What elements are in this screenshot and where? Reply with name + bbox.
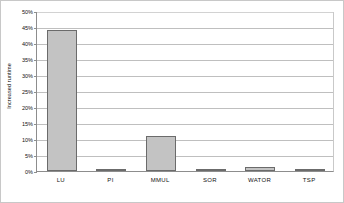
y-axis-tick-label: 10%: [22, 137, 33, 143]
x-axis-tick-label: WATOR: [248, 177, 271, 183]
y-axis-tick-label: 5%: [25, 153, 33, 159]
y-axis-title-text: Increased runtime: [6, 63, 12, 109]
bar-tsp: [295, 169, 325, 171]
bar-series: [37, 12, 333, 171]
bar-chart: Increased runtime 0%5%10%15%20%25%30%35%…: [0, 0, 344, 203]
x-axis-tick-label: PI: [107, 177, 113, 183]
x-axis-tick-label: MMUL: [151, 177, 170, 183]
x-axis-tick-label: SOR: [203, 177, 217, 183]
bar-wator: [245, 167, 275, 171]
y-axis-tick-mark: [34, 172, 37, 173]
y-axis-tick-labels: 0%5%10%15%20%25%30%35%40%45%50%: [13, 12, 35, 172]
y-axis-tick-label: 45%: [22, 25, 33, 31]
y-axis-tick-label: 30%: [22, 73, 33, 79]
bar-slot: [87, 12, 137, 171]
x-axis-tick-labels: LUPIMMULSORWATORTSP: [36, 177, 334, 191]
x-axis-tick-label: LU: [57, 177, 65, 183]
bar-slot: [236, 12, 286, 171]
bar-slot: [136, 12, 186, 171]
y-axis-tick-label: 25%: [22, 89, 33, 95]
plot-area: [36, 12, 334, 172]
bar-sor: [196, 169, 226, 171]
bar-pi: [96, 169, 126, 171]
y-axis-tick-label: 20%: [22, 105, 33, 111]
bar-slot: [285, 12, 335, 171]
bar-slot: [186, 12, 236, 171]
bar-mmul: [146, 136, 176, 171]
bar-lu: [47, 30, 77, 171]
bar-slot: [37, 12, 87, 171]
y-axis-tick-label: 0%: [25, 169, 33, 175]
y-axis-tick-label: 35%: [22, 57, 33, 63]
y-axis-tick-label: 40%: [22, 41, 33, 47]
y-axis-tick-label: 50%: [22, 9, 33, 15]
x-axis-tick-label: TSP: [303, 177, 316, 183]
y-axis-tick-label: 15%: [22, 121, 33, 127]
